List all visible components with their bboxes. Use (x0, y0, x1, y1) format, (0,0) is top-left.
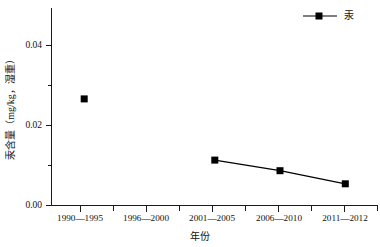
chart-container: 0.04 0.02 0.00 汞含量（mg/kg，湿重） 1990—1995 1… (0, 0, 380, 247)
y-tick-label-2: 0.00 (25, 200, 42, 210)
legend-label-mercury: 汞 (344, 10, 354, 21)
y-tick-label-1: 0.02 (25, 120, 42, 130)
y-tick-label-0: 0.04 (25, 40, 42, 50)
data-point-marker (277, 167, 284, 174)
data-point-marker (81, 95, 88, 102)
x-tick-label-0: 1990—1995 (57, 213, 103, 223)
x-tick-label-1: 1996—2000 (123, 213, 169, 223)
mercury-concentration-line-chart: 0.04 0.02 0.00 汞含量（mg/kg，湿重） 1990—1995 1… (0, 0, 380, 247)
data-point-marker (211, 157, 218, 164)
data-point-marker (342, 180, 349, 187)
y-axis-title: 汞含量（mg/kg，湿重） (4, 54, 16, 160)
x-axis-title: 年份 (190, 230, 210, 242)
x-tick-label-3: 2006—2010 (256, 213, 302, 223)
x-tick-label-4: 2011—2012 (322, 213, 368, 223)
x-tick-label-2: 2001—2005 (189, 213, 235, 223)
chart-background (0, 0, 380, 247)
legend-marker-square (316, 13, 323, 20)
